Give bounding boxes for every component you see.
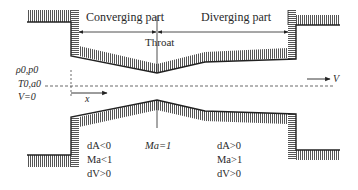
- stagnation-density-pressure-label: ρ0,p0: [15, 64, 38, 75]
- bottom-wall: [27, 100, 340, 167]
- converging-condition: dV>0: [87, 168, 111, 179]
- x-axis-label: x: [84, 93, 90, 104]
- nozzle-diagram: Converging part Diverging part Throat ρ0…: [0, 0, 358, 190]
- top-wall: [27, 10, 340, 73]
- stagnation-temperature-sound-label: T0,a0: [18, 78, 41, 89]
- diverging-part-label: Diverging part: [201, 10, 272, 24]
- velocity-label: V: [333, 73, 341, 84]
- diverging-condition: dV>0: [217, 168, 241, 179]
- converging-condition: Ma<1: [87, 154, 112, 165]
- converging-condition: dA<0: [87, 140, 111, 151]
- diverging-condition: dA>0: [217, 140, 241, 151]
- converging-conditions: dA<0 Ma<1 dV>0: [87, 140, 112, 179]
- throat-mach-label: Ma=1: [144, 140, 171, 151]
- stagnation-velocity-label: V=0: [18, 91, 36, 102]
- throat-label: Throat: [145, 36, 174, 48]
- diverging-conditions: dA>0 Ma>1 dV>0: [217, 140, 242, 179]
- converging-part-label: Converging part: [86, 10, 165, 24]
- diverging-condition: Ma>1: [217, 154, 242, 165]
